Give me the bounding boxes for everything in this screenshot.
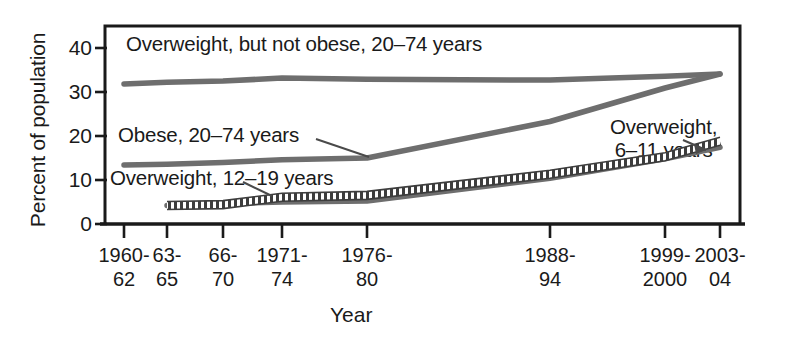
series-line-overweight-6-11: [167, 141, 720, 205]
chart-plot-area: [0, 0, 788, 345]
chart-figure: Percent of population Year 40 30 20 10 0…: [0, 0, 788, 345]
x-axis-ticks: [124, 224, 720, 238]
leader-line-obese: [316, 139, 369, 157]
series-line-overweight-not-obese: [124, 74, 720, 84]
series-line-obese: [124, 74, 720, 165]
leader-line-overweight-12-19: [243, 182, 272, 196]
